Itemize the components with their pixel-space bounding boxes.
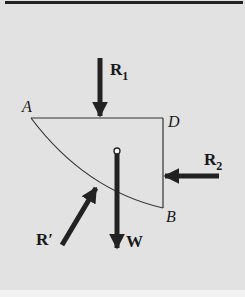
point-label-a: A: [21, 98, 32, 115]
force-r-prime-arrow-icon: [62, 188, 96, 245]
force-label-r-prime: R′: [36, 230, 53, 249]
free-body-diagram: A D B R1 R2 R′ W: [0, 0, 245, 297]
force-label-r2: R2: [204, 150, 222, 173]
point-label-b: B: [166, 208, 176, 225]
force-label-w: W: [126, 232, 143, 251]
bottom-margin: [0, 290, 245, 297]
arc-a-b: [31, 118, 163, 208]
force-label-r1: R1: [110, 60, 128, 83]
point-label-d: D: [167, 113, 180, 130]
quarter-circle-body: [31, 118, 163, 208]
diagram-panel: A D B R1 R2 R′ W: [0, 0, 245, 297]
center-of-gravity-icon: [114, 148, 120, 154]
